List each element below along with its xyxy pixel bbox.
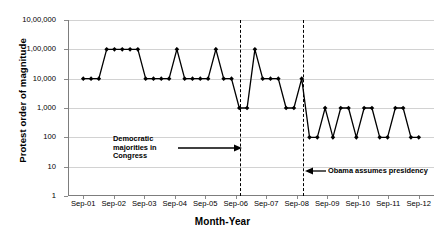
data-point-marker (354, 135, 359, 140)
data-point-marker (377, 135, 382, 140)
data-point-marker (284, 106, 289, 111)
x-axis-tick-label: Sep-10 (346, 200, 371, 208)
data-point-marker (206, 76, 211, 81)
data-point-marker (143, 76, 148, 81)
data-point-marker (198, 76, 203, 81)
y-axis-tick-label: 1,00,000 (26, 45, 56, 53)
data-point-marker (159, 76, 164, 81)
data-point-marker (338, 106, 343, 111)
data-point-marker (276, 76, 281, 81)
data-point-marker (229, 76, 234, 81)
data-point-marker (416, 135, 421, 140)
data-point-marker (104, 47, 109, 52)
y-axis-tick (64, 196, 68, 197)
x-axis-tick-labels: Sep-01Sep-02Sep-03Sep-04Sep-05Sep-06Sep-… (68, 199, 434, 213)
data-point-marker (315, 135, 320, 140)
annotation-democratic-majorities: Democratic majorities in Congress (113, 135, 157, 161)
y-axis-tick-label: 10,000 (33, 75, 56, 83)
x-axis-title: Month-Year (0, 216, 445, 227)
y-axis-tick-labels: 10,00,0001,00,00010,0001,000100101 (0, 20, 64, 196)
x-axis-tick-label: Sep-04 (163, 200, 188, 208)
data-point-marker (299, 76, 304, 81)
data-point-marker (393, 106, 398, 111)
data-point-marker (346, 106, 351, 111)
data-point-marker (307, 135, 312, 140)
data-point-marker (370, 106, 375, 111)
x-axis-tick-label: Sep-12 (407, 200, 432, 208)
protest-magnitude-line-chart: Protest order of magnitude 10,00,0001,00… (0, 0, 445, 239)
y-axis-tick-label: 100 (43, 133, 56, 141)
data-point-marker (128, 47, 133, 52)
data-point-marker (190, 76, 195, 81)
data-point-marker (260, 76, 265, 81)
data-point-marker (331, 135, 336, 140)
data-point-marker (401, 106, 406, 111)
y-axis-tick-label: 10,00,000 (22, 16, 56, 24)
x-axis-tick-label: Sep-01 (71, 200, 96, 208)
x-axis-tick-label: Sep-03 (132, 200, 157, 208)
data-point-marker (268, 76, 273, 81)
data-point-marker (120, 47, 125, 52)
x-axis-tick-label: Sep-07 (254, 200, 279, 208)
data-point-marker (182, 76, 187, 81)
x-axis-tick-label: Sep-06 (224, 200, 249, 208)
data-point-marker (97, 76, 102, 81)
data-point-marker (136, 47, 141, 52)
data-point-marker (253, 47, 258, 52)
data-point-marker (221, 76, 226, 81)
data-point-marker (292, 106, 297, 111)
data-point-marker (89, 76, 94, 81)
y-axis-tick-label: 10 (48, 163, 56, 171)
x-axis-tick-label: Sep-11 (376, 200, 400, 208)
data-point-marker (237, 106, 242, 111)
data-point-marker (214, 47, 219, 52)
data-point-marker (81, 76, 86, 81)
x-axis-tick-label: Sep-02 (102, 200, 127, 208)
data-point-marker (167, 76, 172, 81)
data-point-marker (245, 106, 250, 111)
data-point-marker (151, 76, 156, 81)
x-axis-tick-label: Sep-05 (193, 200, 218, 208)
data-point-marker (409, 135, 414, 140)
annotation-obama-presidency: Obama assumes presidency (328, 167, 428, 176)
data-point-marker (175, 47, 180, 52)
data-point-marker (362, 106, 367, 111)
annotation-line-3: Congress (113, 152, 157, 161)
data-point-marker (323, 106, 328, 111)
y-axis-tick-label: 1 (52, 192, 56, 200)
data-point-marker (385, 135, 390, 140)
y-axis-tick-label: 1,000 (37, 104, 56, 112)
data-point-marker (112, 47, 117, 52)
x-axis-tick-label: Sep-09 (315, 200, 340, 208)
x-axis-tick-label: Sep-08 (285, 200, 310, 208)
